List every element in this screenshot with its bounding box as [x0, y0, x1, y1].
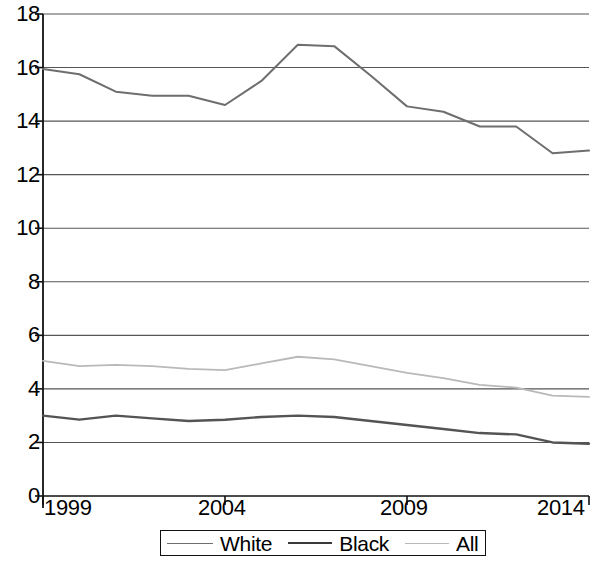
chart-legend: White Black All — [160, 530, 486, 556]
legend-label-white: White — [220, 533, 272, 554]
legend-label-all: All — [456, 533, 478, 554]
series-line-white — [43, 45, 589, 153]
legend-item-black: Black — [288, 533, 405, 554]
black-line-swatch-icon — [288, 542, 332, 544]
legend-label-black: Black — [339, 533, 389, 554]
y-axis-ticks — [35, 14, 43, 496]
all-line-swatch-icon — [405, 543, 449, 544]
plot-area: 024681012141618 — [0, 0, 608, 520]
legend-item-white: White — [167, 533, 288, 554]
series-line-black — [43, 416, 589, 444]
x-axis-label-2009: 2009 — [380, 496, 428, 520]
x-axis-label-2014: 2014 — [537, 496, 585, 520]
series-line-all — [43, 357, 589, 397]
white-line-swatch-icon — [167, 543, 213, 544]
x-axis-label-2004: 2004 — [198, 496, 246, 520]
legend-item-all: All — [405, 533, 478, 554]
x-axis-label-1999: 1999 — [44, 496, 92, 520]
data-series — [43, 45, 589, 444]
line-chart-canvas — [0, 0, 608, 520]
chart-figure: 024681012141618 1999200420092014 White B… — [0, 0, 608, 561]
gridlines — [43, 14, 589, 496]
